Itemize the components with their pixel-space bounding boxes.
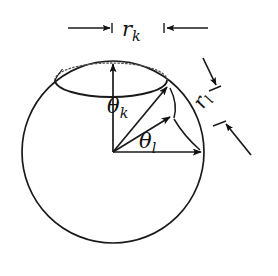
label-angle-theta-l-subscript: l <box>152 140 157 156</box>
rl-upper-dimension-arrow <box>203 58 216 85</box>
label-angle-theta-l-symbol: θ <box>139 129 152 153</box>
label-radius-l-container: rl <box>199 95 239 121</box>
rl-lower-dimension-arrow <box>226 124 251 155</box>
label-angle-theta-l: θl <box>139 131 156 155</box>
rl-lower-tick <box>213 121 226 126</box>
label-angle-theta-k-symbol: θ <box>107 94 120 118</box>
rim-chord-lower <box>174 119 200 150</box>
geometry-figure: rk θk θl rl <box>0 0 278 276</box>
label-angle-theta-k-subscript: k <box>120 105 129 121</box>
label-radius-k-subscript: k <box>132 28 141 44</box>
rl-upper-tick <box>209 86 221 91</box>
label-radius-k-symbol: r <box>122 17 132 41</box>
label-radius-k: rk <box>122 19 141 43</box>
label-angle-theta-k: θk <box>107 96 128 120</box>
rim-chord-upper <box>170 88 175 118</box>
